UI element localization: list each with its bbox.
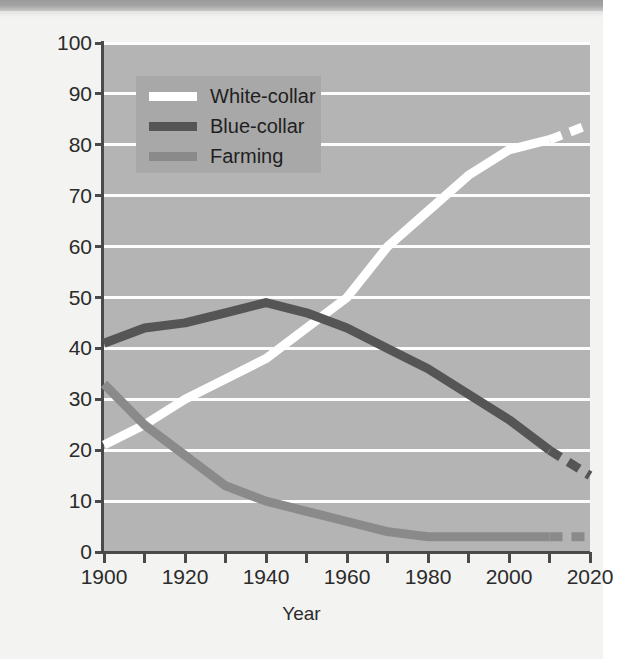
y-tick-label: 30 xyxy=(0,388,92,409)
legend-item-white-collar[interactable]: White-collar xyxy=(149,82,316,110)
chart-legend: White-collar Blue-collar Farming xyxy=(136,76,321,173)
y-tick-label: 100 xyxy=(0,32,92,53)
x-tick-mark xyxy=(265,552,268,563)
y-tick-mark xyxy=(95,143,104,146)
x-tick-label: 1940 xyxy=(221,566,311,587)
y-tick-label: 80 xyxy=(0,134,92,155)
y-tick-label: 20 xyxy=(0,439,92,460)
legend-swatch-blue-collar xyxy=(149,122,197,131)
x-tick-label: 1920 xyxy=(140,566,230,587)
gridline xyxy=(104,245,590,248)
x-tick-mark-minor xyxy=(143,552,146,563)
legend-item-farming[interactable]: Farming xyxy=(149,142,283,170)
x-tick-label: 1960 xyxy=(302,566,392,587)
y-tick-mark xyxy=(95,449,104,452)
x-axis-title: Year xyxy=(0,603,603,625)
y-tick-mark xyxy=(95,347,104,350)
x-tick-mark-minor xyxy=(224,552,227,563)
legend-swatch-farming xyxy=(149,152,197,161)
y-tick-mark xyxy=(95,398,104,401)
x-tick-mark-minor xyxy=(386,552,389,563)
x-tick-mark xyxy=(184,552,187,563)
y-tick-mark xyxy=(95,245,104,248)
x-tick-mark xyxy=(103,552,106,563)
y-tick-label: 0 xyxy=(0,541,92,562)
x-tick-label: 1900 xyxy=(59,566,149,587)
x-tick-label: 2000 xyxy=(464,566,554,587)
y-tick-mark xyxy=(95,500,104,503)
gridline xyxy=(104,347,590,350)
y-tick-label: 60 xyxy=(0,236,92,257)
y-tick-label: 90 xyxy=(0,83,92,104)
gridline xyxy=(104,296,590,299)
x-tick-mark-minor xyxy=(467,552,470,563)
legend-label-farming: Farming xyxy=(210,146,283,166)
gridline xyxy=(104,194,590,197)
x-tick-mark-minor xyxy=(548,552,551,563)
x-tick-mark xyxy=(427,552,430,563)
gridline xyxy=(104,398,590,401)
y-tick-mark xyxy=(95,42,104,45)
y-tick-label: 10 xyxy=(0,490,92,511)
y-tick-label: 50 xyxy=(0,287,92,308)
y-tick-label: 70 xyxy=(0,185,92,206)
gridline xyxy=(104,449,590,452)
y-tick-label: 40 xyxy=(0,337,92,358)
x-tick-label: 1980 xyxy=(383,566,473,587)
x-tick-mark xyxy=(589,552,592,563)
x-tick-mark-minor xyxy=(305,552,308,563)
x-tick-label: 2020 xyxy=(545,566,618,587)
legend-swatch-white-collar xyxy=(149,92,197,101)
x-tick-mark xyxy=(346,552,349,563)
y-tick-mark xyxy=(95,194,104,197)
legend-label-white-collar: White-collar xyxy=(210,86,316,106)
x-tick-mark xyxy=(508,552,511,563)
y-tick-mark xyxy=(95,92,104,95)
gridline xyxy=(104,500,590,503)
legend-item-blue-collar[interactable]: Blue-collar xyxy=(149,112,304,140)
legend-label-blue-collar: Blue-collar xyxy=(210,116,304,136)
gridline xyxy=(104,42,590,45)
y-tick-mark xyxy=(95,296,104,299)
